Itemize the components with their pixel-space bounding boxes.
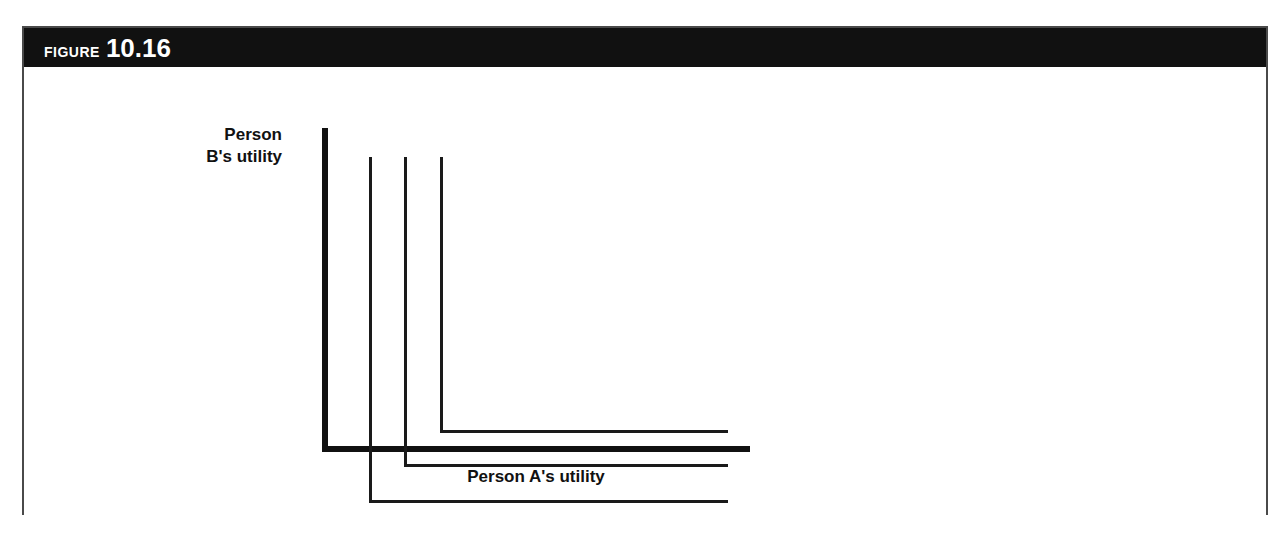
figure-header-word: Figure (44, 38, 100, 60)
plot-area: Person B's utility Person A's utility (24, 67, 1266, 515)
y-axis-line (322, 128, 328, 452)
x-axis-label: Person A's utility (322, 467, 750, 487)
figure-header-number: 10.16 (106, 32, 171, 62)
figure-frame: Figure10.16 Person B's utility Person A'… (22, 26, 1268, 515)
indifference-curve-1 (369, 157, 728, 503)
y-axis-label: Person B's utility (52, 124, 282, 168)
figure-header-label: Figure10.16 (44, 32, 171, 63)
figure-header-bar: Figure10.16 (24, 28, 1266, 67)
